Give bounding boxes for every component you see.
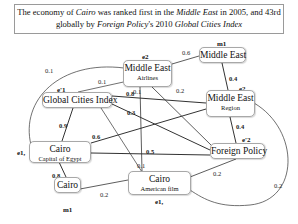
edge-gci-region — [112, 96, 206, 103]
node-label: Middle East — [200, 50, 245, 61]
node-sublabel: American film — [129, 185, 190, 193]
weight-label: 0.6 — [182, 49, 190, 56]
node-label: Foreign Policy — [211, 146, 264, 157]
node-tag: e1, — [17, 149, 25, 157]
node-tag: e1, — [155, 198, 163, 206]
weight-label: 0.1 — [137, 162, 145, 169]
weight-label: 0.2 — [100, 191, 108, 198]
node-cairo-mention: Cairo — [54, 177, 81, 193]
node-middle-east-region: Middle East Region — [206, 90, 255, 117]
edge-airlines-film — [140, 87, 142, 171]
node-label: Cairo — [30, 144, 90, 155]
node-label: Global Cities Index — [43, 95, 111, 106]
weight-label: 0.1 — [98, 78, 106, 85]
weight-label: 0.4 — [229, 75, 237, 82]
node-label: Middle East — [124, 63, 171, 74]
weight-label: 0.1 — [45, 67, 53, 74]
node-sublabel: Region — [207, 104, 254, 112]
edge-m1-airlines — [172, 56, 199, 64]
edge-cairo-film — [80, 180, 128, 189]
node-label: Middle East — [207, 93, 254, 104]
node-label: Cairo — [129, 174, 190, 185]
weight-label: 0.2 — [274, 182, 282, 189]
weight-label: 0.1 — [133, 88, 141, 95]
node-sublabel: Airlines — [124, 74, 171, 82]
weight-label: 0.4 — [236, 123, 244, 130]
weight-label: 0.5 — [146, 148, 154, 155]
weight-label: 0.2 — [176, 87, 184, 94]
weight-label: 0.9 — [59, 122, 67, 129]
weight-label: 0.6 — [92, 133, 100, 140]
node-global-cities-index: Global Cities Index — [42, 92, 112, 108]
edge-capital-region — [91, 109, 206, 143]
node-cairo-capital-of-egypt: Cairo Capital of Egypt — [29, 141, 91, 163]
node-middle-east-airlines: Middle East Airlines — [123, 60, 172, 87]
edge-m1-region — [222, 63, 228, 90]
node-middle-east-mention: Middle East — [199, 47, 246, 63]
edge-region-fp — [230, 117, 236, 143]
edge-gci-film — [101, 108, 142, 172]
node-tag: m1 — [63, 206, 72, 214]
weight-label: 0.3 — [127, 109, 135, 116]
node-foreign-policy: Foreign Policy — [210, 143, 265, 159]
node-cairo-american-film: Cairo American film — [128, 171, 191, 195]
weight-label: 0.2 — [213, 170, 221, 177]
node-sublabel: Capital of Egypt — [30, 155, 90, 163]
weight-label: 0.8 — [126, 90, 134, 97]
node-label: Cairo — [55, 180, 80, 191]
